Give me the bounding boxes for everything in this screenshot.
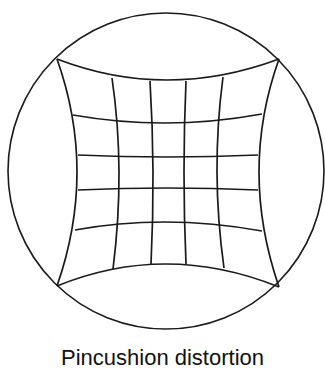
grid-column-line-2 bbox=[150, 81, 153, 264]
grid-column-line-4 bbox=[217, 77, 224, 268]
grid-row-line-2 bbox=[78, 155, 258, 157]
grid-column-line-1 bbox=[112, 78, 119, 269]
grid-row-line-5 bbox=[57, 264, 279, 287]
figure-caption: Pincushion distortion bbox=[0, 345, 325, 369]
grid-row-line-1 bbox=[73, 114, 262, 123]
grid-row-line-4 bbox=[75, 222, 262, 231]
grid-column-line-0 bbox=[57, 59, 77, 286]
grid-vertical-lines bbox=[57, 59, 279, 287]
grid-horizontal-lines bbox=[57, 59, 279, 287]
grid-row-line-3 bbox=[78, 188, 258, 190]
grid-row-line-0 bbox=[57, 59, 279, 80]
grid-column-line-5 bbox=[259, 59, 279, 287]
grid-column-line-3 bbox=[184, 81, 186, 264]
